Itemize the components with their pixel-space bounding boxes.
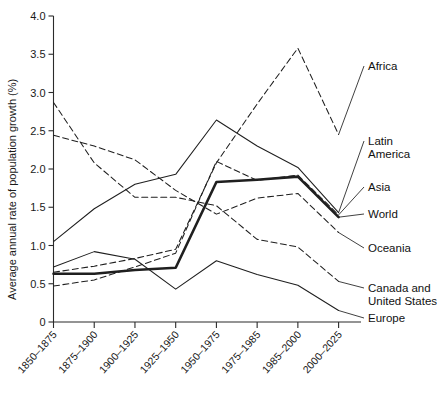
leader-line-3: [339, 214, 364, 217]
series-label-0: Africa: [368, 60, 398, 72]
series-label-4: Oceania: [368, 242, 411, 254]
series-line-africa: [54, 48, 339, 272]
series-label-5: Canada and: [368, 282, 431, 294]
x-tick-label: 1925–1950: [137, 328, 181, 375]
series-line-world: [54, 177, 339, 274]
y-axis-ticks: 00.51.01.52.02.53.03.54.0: [30, 10, 53, 328]
series-line-europe: [54, 252, 339, 311]
series-label-2: Asia: [368, 181, 391, 193]
leader-line-5: [339, 281, 364, 288]
y-tick-label: 0: [39, 316, 45, 328]
y-tick-label: 2.0: [30, 163, 45, 175]
y-tick-label: 4.0: [30, 10, 45, 22]
leader-line-4: [339, 233, 364, 249]
x-axis-ticks: 1850–18751875–19001900–19251925–19501950…: [15, 322, 344, 375]
series-labels: AfricaLatinAmericaAsiaWorldOceaniaCanada…: [339, 60, 437, 324]
series-label-1-line2: America: [368, 148, 411, 160]
x-tick-label: 2000–2025: [300, 328, 344, 375]
leader-line-6: [339, 311, 364, 318]
x-tick-label: 1875–1900: [56, 328, 100, 375]
y-tick-label: 3.0: [30, 87, 45, 99]
x-tick-label: 1900–1925: [96, 328, 140, 375]
y-tick-label: 1.5: [30, 201, 45, 213]
leader-line-0: [339, 66, 364, 135]
y-tick-label: 1.0: [30, 240, 45, 252]
x-tick-label: 1985–2000: [259, 328, 303, 375]
x-tick-label: 1950–1975: [178, 328, 222, 375]
series-line-oceania: [54, 135, 339, 232]
series-label-5-line2: United States: [368, 295, 437, 307]
series-line-canada-and-united-states: [54, 102, 339, 281]
x-tick-label: 1850–1875: [15, 328, 59, 375]
y-axis-title: Average annual rate of population growth…: [6, 79, 18, 300]
series-label-3: World: [368, 208, 398, 220]
y-tick-label: 0.5: [30, 278, 45, 290]
leader-line-1: [339, 141, 364, 213]
y-tick-label: 3.5: [30, 48, 45, 60]
chart-svg: 00.51.01.52.02.53.03.54.0 1850–18751875–…: [0, 0, 437, 393]
y-tick-label: 2.5: [30, 125, 45, 137]
series-label-6: Europe: [368, 312, 405, 324]
x-tick-label: 1975–1985: [219, 328, 263, 375]
series-lines: [54, 48, 339, 310]
population-growth-chart: 00.51.01.52.02.53.03.54.0 1850–18751875–…: [0, 0, 437, 393]
series-label-1: Latin: [368, 135, 393, 147]
